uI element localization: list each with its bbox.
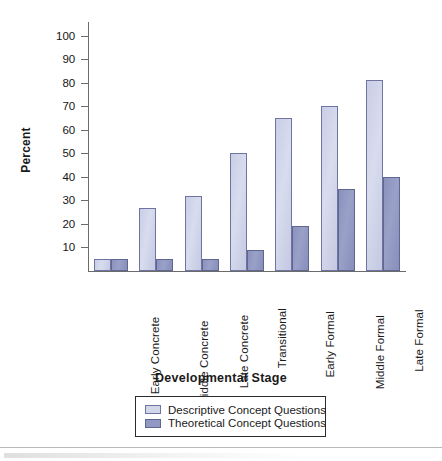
x-tick-label: Late Formal (414, 309, 426, 371)
y-tick-label: 60 (62, 124, 75, 136)
bar-descriptive (185, 196, 202, 271)
bar-chart-figure: Percent 102030405060708090100 Early Conc… (0, 0, 442, 461)
y-tick-mark (81, 83, 88, 84)
y-tick-label: 10 (62, 241, 75, 253)
bar-group (138, 24, 174, 271)
y-tick-mark (81, 224, 88, 225)
y-tick-mark (81, 106, 88, 107)
y-tick-label: 50 (62, 147, 75, 159)
bar-theoretical (247, 250, 264, 271)
y-tick-label: 100 (56, 30, 75, 42)
y-tick-mark (81, 153, 88, 154)
legend-item-theoretical: Theoretical Concept Questions (145, 417, 317, 429)
y-tick-label: 80 (62, 77, 75, 89)
x-tick-label: Middle Concrete (198, 321, 210, 406)
bar-theoretical (338, 189, 355, 271)
y-tick-mark (81, 36, 88, 37)
bar-group (93, 24, 129, 271)
bar-group (320, 24, 356, 271)
bar-theoretical (292, 226, 309, 271)
scan-artifact (4, 453, 304, 458)
bar-descriptive (321, 106, 338, 271)
legend-item-descriptive: Descriptive Concept Questions (145, 404, 317, 416)
chart-legend: Descriptive Concept Questions Theoretica… (135, 396, 326, 437)
plot-area (88, 24, 408, 271)
legend-swatch-theoretical (145, 419, 161, 428)
y-tick-mark (81, 177, 88, 178)
bar-theoretical (383, 177, 400, 271)
bar-theoretical (156, 259, 173, 271)
x-tick-label: Early Formal (325, 311, 337, 377)
legend-label-descriptive: Descriptive Concept Questions (168, 404, 326, 416)
bar-group (184, 24, 220, 271)
y-tick-label: 70 (62, 100, 75, 112)
y-axis-title: Percent (19, 127, 33, 172)
bar-descriptive (139, 208, 156, 272)
page-footer-rule (0, 447, 442, 448)
bar-descriptive (366, 80, 383, 271)
bar-descriptive (275, 118, 292, 271)
bar-group (274, 24, 310, 271)
bar-group (365, 24, 401, 271)
legend-swatch-descriptive (145, 405, 161, 414)
y-tick-label: 40 (62, 171, 75, 183)
x-tick-label: Transitional (276, 308, 288, 368)
y-tick-label: 20 (62, 218, 75, 230)
y-tick-mark (81, 247, 88, 248)
bar-theoretical (202, 259, 219, 271)
y-tick-label: 90 (62, 53, 75, 65)
y-tick-label: 30 (62, 194, 75, 206)
y-tick-mark (81, 200, 88, 201)
bar-theoretical (111, 259, 128, 271)
bar-group (229, 24, 265, 271)
y-tick-mark (81, 59, 88, 60)
y-tick-mark (81, 130, 88, 131)
legend-label-theoretical: Theoretical Concept Questions (168, 417, 326, 429)
bar-descriptive (230, 153, 247, 271)
bar-descriptive (94, 259, 111, 271)
x-axis-title: Developmental Stage (0, 371, 442, 385)
